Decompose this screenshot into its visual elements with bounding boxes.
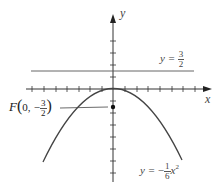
directrix-fraction: 3 2 bbox=[178, 50, 185, 69]
y-axis-label: y bbox=[120, 6, 125, 21]
focus-point bbox=[111, 105, 115, 109]
focus-leader-line bbox=[60, 107, 108, 108]
focus-label: F(0, − 3 2 ) bbox=[9, 97, 52, 118]
directrix-lhs: y = bbox=[160, 52, 175, 64]
y-axis bbox=[110, 14, 116, 182]
parabola-label: y = − 1 6 x2 bbox=[140, 162, 179, 181]
focus-letter: F bbox=[9, 99, 17, 114]
directrix-label: y = 3 2 bbox=[160, 50, 184, 69]
x-axis-label: x bbox=[205, 92, 210, 107]
parabola-diagram bbox=[0, 0, 222, 192]
